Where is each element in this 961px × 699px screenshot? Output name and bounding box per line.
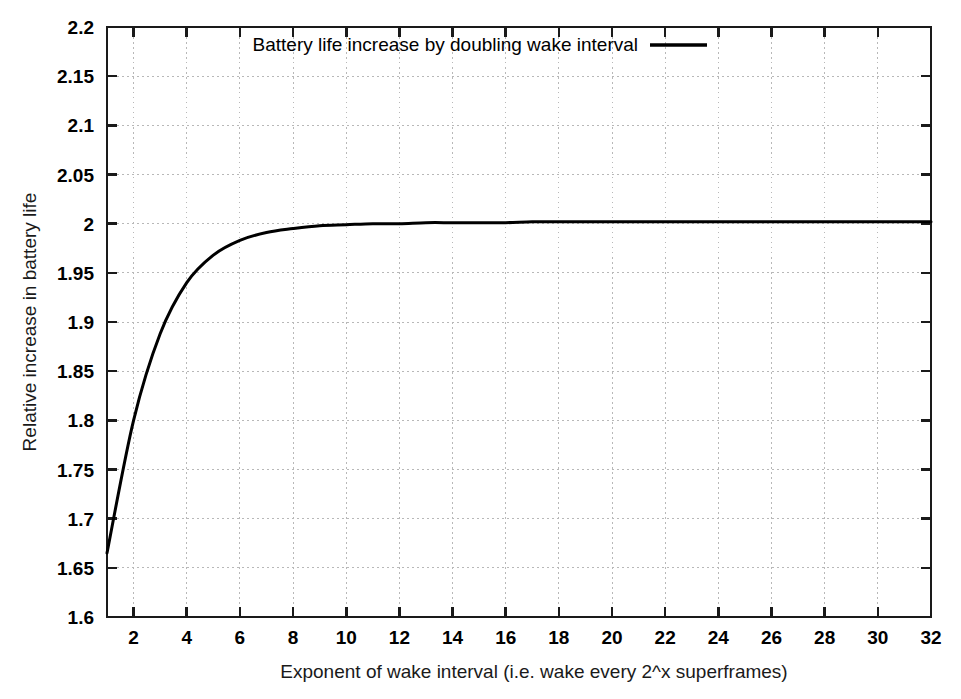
x-tick-label: 32 xyxy=(920,627,941,648)
y-tick-label: 1.8 xyxy=(68,410,94,431)
x-tick-label: 16 xyxy=(495,627,516,648)
y-tick-label: 2.1 xyxy=(68,115,95,136)
chart-canvas: 2468101214161820222426283032 1.61.651.71… xyxy=(0,0,961,699)
x-tick-label: 24 xyxy=(708,627,730,648)
y-axis-title: Relative increase in battery life xyxy=(19,193,40,452)
x-tick-label: 28 xyxy=(814,627,835,648)
y-tick-label: 1.85 xyxy=(57,361,94,382)
chart-figure: 2468101214161820222426283032 1.61.651.71… xyxy=(0,0,961,699)
x-tick-label: 14 xyxy=(442,627,464,648)
x-tick-label: 30 xyxy=(867,627,888,648)
chart-background xyxy=(0,0,961,699)
y-tick-label: 1.75 xyxy=(57,460,94,481)
x-tick-label: 2 xyxy=(128,627,139,648)
x-tick-label: 18 xyxy=(548,627,569,648)
x-axis-title: Exponent of wake interval (i.e. wake eve… xyxy=(280,661,787,682)
x-tick-label: 6 xyxy=(235,627,246,648)
y-tick-label: 2.2 xyxy=(68,17,94,38)
legend-label-0: Battery life increase by doubling wake i… xyxy=(253,34,638,55)
y-tick-label: 1.9 xyxy=(68,312,94,333)
y-tick-label: 2.05 xyxy=(57,165,94,186)
x-tick-label: 20 xyxy=(601,627,622,648)
y-tick-label: 2 xyxy=(83,214,94,235)
x-tick-label: 26 xyxy=(761,627,782,648)
x-tick-label: 4 xyxy=(181,627,192,648)
y-tick-label: 1.6 xyxy=(68,607,94,628)
y-tick-label: 1.7 xyxy=(68,509,94,530)
x-tick-label: 12 xyxy=(389,627,410,648)
y-tick-label: 1.65 xyxy=(57,558,94,579)
x-tick-label: 8 xyxy=(288,627,299,648)
y-tick-label: 1.95 xyxy=(57,263,94,284)
y-tick-label: 2.15 xyxy=(57,66,94,87)
x-tick-label: 22 xyxy=(655,627,676,648)
x-tick-label: 10 xyxy=(336,627,357,648)
